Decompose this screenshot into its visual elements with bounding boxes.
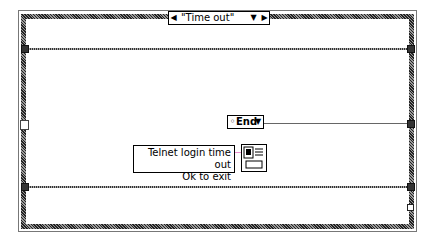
enum-value: End [236, 116, 257, 128]
string-line-1: Telnet login time out [137, 147, 231, 171]
left-tunnel-top[interactable] [21, 45, 29, 53]
case-selector-label: "Time out" [181, 12, 234, 24]
string-line-2: Ok to exit [137, 171, 231, 183]
right-tunnel-output[interactable] [407, 204, 414, 211]
enum-dropdown-icon[interactable]: ▼ [255, 116, 261, 128]
one-button-dialog-node[interactable] [241, 144, 267, 172]
dropdown-arrow-icon[interactable]: ▼ [249, 12, 258, 24]
left-tunnel-middle[interactable] [20, 120, 29, 130]
left-tunnel-bottom[interactable] [21, 183, 29, 191]
right-tunnel-enum[interactable] [407, 120, 415, 128]
enum-wire[interactable] [264, 123, 410, 124]
error-wire-top[interactable] [26, 48, 409, 50]
decrement-arrow-icon[interactable]: ◀ [169, 12, 178, 24]
enum-prefix-icon: ◦ [230, 116, 235, 128]
dialog-icon [242, 145, 266, 171]
right-tunnel-bottom[interactable] [407, 183, 415, 191]
string-constant[interactable]: Telnet login time out Ok to exit [133, 145, 235, 173]
case-selector[interactable]: ◀ "Time out" ▼ ▶ [168, 11, 270, 25]
enum-constant[interactable]: ◦ End ▼ [227, 115, 264, 129]
right-tunnel-top[interactable] [407, 45, 415, 53]
error-wire-bottom[interactable] [26, 186, 409, 188]
increment-arrow-icon[interactable]: ▶ [260, 12, 269, 24]
